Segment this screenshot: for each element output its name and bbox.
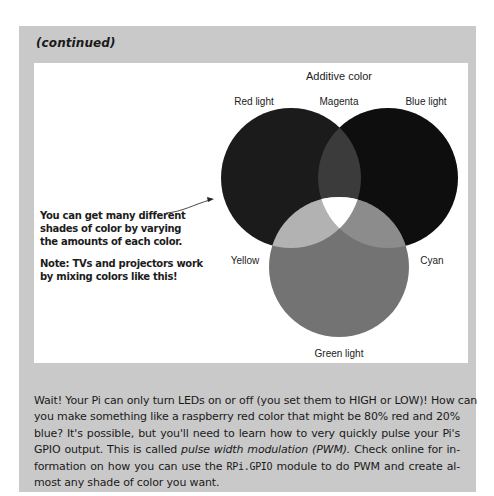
figure-annotation: You can get many different shades of col… xyxy=(40,209,203,283)
arrow-head-icon xyxy=(207,197,214,202)
rpi-gpio-code: RPi.GPIO xyxy=(227,461,273,472)
sidebar-body-paragraph: Wait! Your Pi can only turn LEDs on or o… xyxy=(34,393,460,491)
body-text-run: module to do PWM and create al- xyxy=(272,460,460,473)
body-line: you make something like a raspberry red … xyxy=(34,409,460,425)
figure-title: Additive color xyxy=(306,70,372,82)
annotation-note: Note: TVs and projectors work by mixing … xyxy=(40,257,203,283)
annotation-line: You can get many different xyxy=(40,210,185,221)
label-green-light: Green light xyxy=(315,348,364,359)
body-line: formation on how you can use the RPi.GPI… xyxy=(34,459,460,475)
body-text-run: formation on how you can use the xyxy=(34,460,227,473)
label-magenta: Magenta xyxy=(320,96,359,107)
body-line: GPIO output. This is called pulse width … xyxy=(34,442,460,458)
body-line: blue? It's possible, but you'll need to … xyxy=(34,426,460,442)
annotation-main: You can get many different shades of col… xyxy=(40,209,203,248)
annotation-note-line: by mixing colors like this! xyxy=(40,271,177,282)
body-line: Wait! Your Pi can only turn LEDs on or o… xyxy=(34,393,460,409)
label-red-light: Red light xyxy=(234,96,273,107)
label-blue-light: Blue light xyxy=(405,96,446,107)
annotation-note-line: Note: TVs and projectors work xyxy=(40,258,203,269)
label-cyan: Cyan xyxy=(420,255,443,266)
annotation-line: shades of color by varying xyxy=(40,223,181,234)
pwm-term: pulse width modulation (PWM). xyxy=(181,443,350,456)
body-line: most any shade of color you want. xyxy=(34,475,460,491)
annotation-line: the amounts of each color. xyxy=(40,236,182,247)
body-text-run: Check online for in- xyxy=(350,443,460,456)
label-yellow: Yellow xyxy=(231,255,260,266)
body-text-run: GPIO output. This is called xyxy=(34,443,181,456)
